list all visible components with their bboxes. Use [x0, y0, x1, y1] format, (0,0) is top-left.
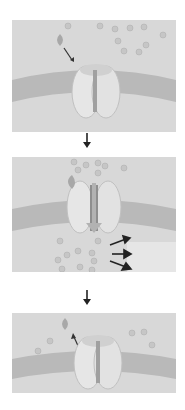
closed-channel-illustration [12, 20, 176, 132]
channel-protein [72, 64, 120, 118]
panel-ligand-released [12, 313, 176, 393]
panel-channel-open [12, 157, 176, 272]
step-arrow-down-2 [82, 290, 92, 306]
step-arrow-down-1 [82, 133, 92, 149]
panel-channel-closed [12, 20, 176, 132]
released-channel-illustration [12, 313, 176, 393]
channel-protein [74, 335, 122, 389]
open-channel-illustration [12, 157, 176, 272]
